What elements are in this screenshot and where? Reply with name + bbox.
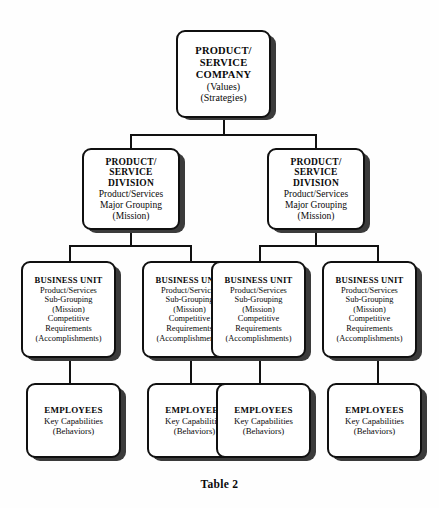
business-unit-3-sub-line-4: Competitive (238, 314, 279, 324)
division-2-title-line-3: DIVISION (293, 178, 339, 189)
business-unit-3-sub-line-3: (Mission) (242, 305, 275, 315)
business-unit-2-sub-line-1: Product/Services (161, 286, 218, 296)
division-2-title-line-2: SERVICE (294, 167, 337, 178)
employees-4-sub-line-1: Key Capabilities (345, 416, 404, 426)
business-unit-2-sub-line-3: (Mission) (173, 305, 206, 315)
employees-4-sub-line-2: (Behaviors) (354, 426, 396, 436)
business-unit-2-sub-line-5: Requirements (166, 324, 213, 334)
division-1-title-line-1: PRODUCT/ (105, 157, 156, 168)
division-1-sub-line-2: Major Grouping (100, 200, 162, 211)
employees-1-sub-line-2: (Behaviors) (53, 426, 95, 436)
connector-division-right-down (315, 134, 317, 148)
employees-1-box[interactable]: EMPLOYEES Key Capabilities (Behaviors) (26, 383, 121, 458)
division-1-sub-line-3: (Mission) (113, 211, 150, 222)
business-unit-1-sub-line-4: Competitive (48, 314, 89, 324)
business-unit-4-sub-line-1: Product/Services (341, 286, 398, 296)
business-unit-4-title: BUSINESS UNIT (336, 276, 404, 286)
company-title-line-3: COMPANY (196, 69, 251, 81)
company-sub-line-2: (Strategies) (200, 92, 246, 103)
business-unit-4-sub-line-3: (Mission) (353, 305, 386, 315)
connector-unit1-employee1 (69, 360, 71, 383)
business-unit-1-sub-line-6: (Accomplishments) (35, 334, 101, 344)
business-unit-1-title: BUSINESS UNIT (35, 276, 103, 286)
connector-unit2-employee2 (190, 360, 192, 383)
business-unit-1-box[interactable]: BUSINESS UNIT Product/Services Sub-Group… (21, 261, 116, 358)
business-unit-4-sub-line-6: (Accomplishments) (336, 334, 402, 344)
connector-division-left-down (130, 134, 132, 148)
employees-3-box[interactable]: EMPLOYEES Key Capabilities (Behaviors) (216, 383, 311, 458)
division-1-title-line-3: DIVISION (108, 178, 154, 189)
business-unit-3-sub-line-6: (Accomplishments) (225, 334, 291, 344)
business-unit-1-sub-line-3: (Mission) (52, 305, 85, 315)
company-box[interactable]: PRODUCT/ SERVICE COMPANY (Values) (Strat… (176, 30, 271, 118)
connector-unit4-down (377, 245, 379, 261)
company-title-line-1: PRODUCT/ (195, 45, 251, 57)
table-caption: Table 2 (0, 478, 439, 490)
business-unit-3-title: BUSINESS UNIT (225, 276, 293, 286)
division-2-title-line-1: PRODUCT/ (290, 157, 341, 168)
org-chart-diagram: PRODUCT/ SERVICE COMPANY (Values) (Strat… (0, 0, 439, 508)
business-unit-4-sub-line-2: Sub-Grouping (346, 295, 394, 305)
business-unit-2-sub-line-2: Sub-Grouping (166, 295, 214, 305)
division-1-box[interactable]: PRODUCT/ SERVICE DIVISION Product/Servic… (82, 148, 180, 230)
business-unit-2-sub-line-4: Competitive (169, 314, 210, 324)
business-unit-3-box[interactable]: BUSINESS UNIT Product/Services Sub-Group… (211, 261, 306, 358)
division-2-sub-line-3: (Mission) (298, 211, 335, 222)
business-unit-4-sub-line-5: Requirements (346, 324, 393, 334)
connector-unit1-down (69, 245, 71, 261)
business-unit-3-sub-line-1: Product/Services (230, 286, 287, 296)
employees-2-sub-line-2: (Behaviors) (174, 426, 216, 436)
connector-division-bus (130, 134, 317, 136)
employees-4-title: EMPLOYEES (345, 405, 403, 415)
employees-3-sub-line-2: (Behaviors) (243, 426, 285, 436)
connector-unit3-down (259, 245, 261, 261)
employees-4-box[interactable]: EMPLOYEES Key Capabilities (Behaviors) (327, 383, 422, 458)
employees-1-sub-line-1: Key Capabilities (44, 416, 103, 426)
business-unit-4-sub-line-4: Competitive (349, 314, 390, 324)
division-2-box[interactable]: PRODUCT/ SERVICE DIVISION Product/Servic… (267, 148, 365, 230)
company-title-line-2: SERVICE (200, 57, 248, 69)
connector-unit-bus-left (69, 245, 192, 247)
company-sub-line-1: (Values) (207, 81, 240, 92)
division-2-sub-line-1: Product/Services (284, 189, 348, 200)
connector-unit3-employee3 (259, 360, 261, 383)
business-unit-3-sub-line-2: Sub-Grouping (235, 295, 283, 305)
connector-company-down (223, 118, 225, 135)
division-1-sub-line-1: Product/Services (99, 189, 163, 200)
connector-unit2-down (190, 245, 192, 261)
employees-3-sub-line-1: Key Capabilities (234, 416, 293, 426)
business-unit-1-sub-line-2: Sub-Grouping (45, 295, 93, 305)
employees-1-title: EMPLOYEES (44, 405, 102, 415)
business-unit-3-sub-line-5: Requirements (235, 324, 282, 334)
employees-3-title: EMPLOYEES (234, 405, 292, 415)
connector-unit4-employee4 (377, 360, 379, 383)
business-unit-1-sub-line-5: Requirements (45, 324, 92, 334)
business-unit-1-sub-line-1: Product/Services (40, 286, 97, 296)
business-unit-4-box[interactable]: BUSINESS UNIT Product/Services Sub-Group… (322, 261, 417, 358)
employees-2-title: EMPLOYEES (165, 405, 223, 415)
connector-unit-bus-right (259, 245, 379, 247)
division-2-sub-line-2: Major Grouping (285, 200, 347, 211)
division-1-title-line-2: SERVICE (109, 167, 152, 178)
